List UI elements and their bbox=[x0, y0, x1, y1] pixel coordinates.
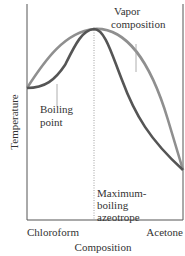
azeotrope-chart: Vapor composition Boiling point Maximum-… bbox=[0, 0, 185, 256]
boiling-point-curve bbox=[27, 29, 183, 170]
azeotrope-label-2: boiling bbox=[97, 199, 129, 211]
x-tick-acetone: Acetone bbox=[146, 226, 183, 238]
boiling-label-2: point bbox=[40, 116, 63, 128]
x-tick-chloroform: Chloroform bbox=[27, 226, 79, 238]
y-axis-title: Temperature bbox=[8, 94, 20, 150]
azeotrope-label-1: Maximum- bbox=[97, 187, 147, 199]
vapor-composition-curve bbox=[27, 29, 183, 170]
azeotrope-label-3: azeotrope bbox=[97, 211, 140, 223]
x-axis-title: Composition bbox=[75, 241, 132, 253]
vapor-label-1: Vapor bbox=[114, 5, 141, 17]
boiling-label-1: Boiling bbox=[40, 103, 74, 115]
vapor-label-2: composition bbox=[111, 18, 166, 30]
